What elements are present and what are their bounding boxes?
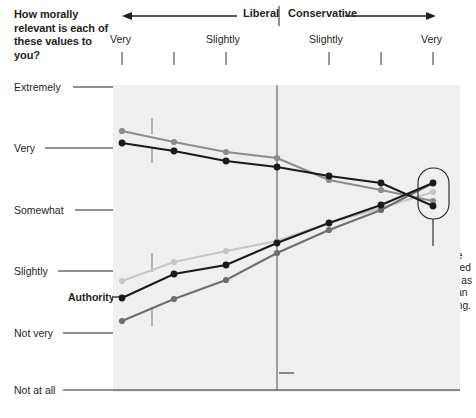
chart-graphics bbox=[0, 0, 476, 418]
x-tick-marks bbox=[122, 52, 433, 65]
liberal-arrow-icon bbox=[122, 12, 237, 20]
conservative-arrow-icon bbox=[345, 12, 436, 20]
moral-foundations-chart: How morally relevant is each of these va… bbox=[0, 0, 476, 418]
